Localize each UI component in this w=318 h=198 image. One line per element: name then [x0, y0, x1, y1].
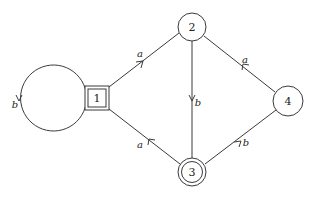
edge-4-to-2: a — [204, 36, 275, 92]
edge-label: a — [242, 54, 248, 65]
node-2: 2 — [178, 13, 206, 41]
node-label: 3 — [189, 166, 196, 179]
edge-3-to-1: a — [109, 109, 180, 164]
node-label: 2 — [189, 21, 196, 34]
edge-label: b — [12, 99, 18, 110]
edge-label: b — [243, 137, 249, 148]
node-4: 4 — [273, 86, 303, 116]
edge-label: a — [137, 48, 143, 59]
node-label: 1 — [94, 92, 101, 105]
edge-1-to-2: a — [109, 33, 179, 87]
edge-label: a — [137, 139, 143, 150]
self-loop-arc — [21, 65, 86, 131]
edge-label: b — [195, 97, 201, 108]
edge-3-to-4: b — [205, 110, 276, 164]
automaton-diagram: b a b a a b 1 2 — [0, 0, 318, 198]
edge-2-to-3: b — [189, 41, 201, 158]
node-label: 4 — [285, 95, 292, 108]
node-1: 1 — [85, 86, 109, 110]
arrowhead-icon — [234, 141, 241, 147]
node-3: 3 — [178, 158, 206, 186]
edge-1-to-1: b — [12, 65, 86, 131]
